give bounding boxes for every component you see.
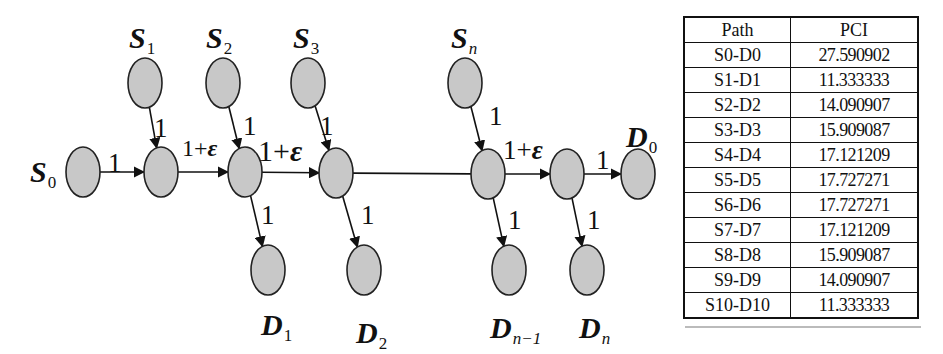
table-shadow xyxy=(685,326,921,328)
weight-cn1-d0: 1 xyxy=(596,147,610,174)
weight-s3-c3: 1 xyxy=(320,113,334,140)
pci-value-cell: 14.090907 xyxy=(791,93,919,118)
weight-cn-cn1: 1+ε xyxy=(503,137,543,164)
node-s3 xyxy=(291,58,325,108)
pci-value-cell: 15.909087 xyxy=(791,118,919,143)
edge-cn1-dn xyxy=(572,198,582,246)
table-row: S7-D717.121209 xyxy=(684,218,918,243)
node-d2 xyxy=(347,245,381,295)
node-c3 xyxy=(319,148,353,198)
node-cn xyxy=(471,149,505,199)
path-cell: S5-D5 xyxy=(684,168,791,193)
path-cell: S8-D8 xyxy=(684,243,791,268)
label-d0: D0 xyxy=(626,122,657,156)
node-dn-1 xyxy=(492,245,526,295)
path-cell: S2-D2 xyxy=(684,93,791,118)
pci-value-cell: 11.333333 xyxy=(791,68,919,93)
edge-c3-d2 xyxy=(343,196,358,247)
column-header-pci: PCI xyxy=(791,17,919,43)
path-cell: S10-D10 xyxy=(684,293,791,319)
weight-c2-c3: 1+ε xyxy=(258,136,302,166)
table-row: S10-D1011.333333 xyxy=(684,293,918,319)
path-cell: S3-D3 xyxy=(684,118,791,143)
table-row: S8-D815.909087 xyxy=(684,243,918,268)
weight-c1-c2: 1+ε xyxy=(182,136,217,160)
path-cell: S1-D1 xyxy=(684,68,791,93)
weight-cn-dn-minus-1: 1 xyxy=(508,207,522,234)
node-dn xyxy=(570,245,604,295)
path-cell: S4-D4 xyxy=(684,143,791,168)
pci-value-cell: 17.727271 xyxy=(791,168,919,193)
pci-table: Path PCI S0-D027.590902S1-D111.333333S2-… xyxy=(683,16,919,319)
label-dn-minus-1: Dn−1 xyxy=(490,313,541,347)
path-cell: S9-D9 xyxy=(684,268,791,293)
label-d2: D2 xyxy=(356,318,387,352)
table-row: S6-D617.727271 xyxy=(684,193,918,218)
label-d1: D1 xyxy=(261,310,292,344)
label-s0: S0 xyxy=(30,157,56,191)
pci-value-cell: 17.121209 xyxy=(791,143,919,168)
weight-sn-cn: 1 xyxy=(489,103,503,130)
label-s3: S3 xyxy=(293,23,319,57)
table-header-row: Path PCI xyxy=(684,17,918,43)
weight-s1-c1: 1 xyxy=(154,115,168,142)
table-body: S0-D027.590902S1-D111.333333S2-D214.0909… xyxy=(684,43,918,319)
node-s1 xyxy=(128,58,162,108)
pci-value-cell: 17.121209 xyxy=(791,218,919,243)
table-row: S0-D027.590902 xyxy=(684,43,918,68)
table-row: S2-D214.090907 xyxy=(684,93,918,118)
pci-value-cell: 11.333333 xyxy=(791,293,919,319)
node-s2 xyxy=(206,58,240,108)
weight-c3-d2: 1 xyxy=(361,202,375,229)
label-s2: S2 xyxy=(206,23,232,57)
pci-value-cell: 15.909087 xyxy=(791,243,919,268)
edge-c2-c3 xyxy=(262,172,319,173)
pci-value-cell: 17.727271 xyxy=(791,193,919,218)
node-d1 xyxy=(251,245,285,295)
weight-cn1-dn: 1 xyxy=(587,207,601,234)
label-s1: S1 xyxy=(129,23,155,57)
node-sn xyxy=(448,58,482,108)
table-row: S3-D315.909087 xyxy=(684,118,918,143)
weight-s2-c2: 1 xyxy=(243,113,257,140)
table-row: S5-D517.727271 xyxy=(684,168,918,193)
node-s0 xyxy=(66,147,100,197)
table-row: S4-D417.121209 xyxy=(684,143,918,168)
table-row: S9-D914.090907 xyxy=(684,268,918,293)
pci-value-cell: 14.090907 xyxy=(791,268,919,293)
edge-s2-c2 xyxy=(229,106,239,148)
weight-s0-c1: 1 xyxy=(108,150,122,177)
node-cn1 xyxy=(550,149,584,199)
label-dn: Dn xyxy=(579,313,610,347)
node-c2 xyxy=(228,147,262,197)
label-sn: Sn xyxy=(451,23,477,57)
path-cell: S6-D6 xyxy=(684,193,791,218)
path-cell: S7-D7 xyxy=(684,218,791,243)
path-cell: S0-D0 xyxy=(684,43,791,68)
weight-c2-d1: 1 xyxy=(261,202,275,229)
edge-c3-cn xyxy=(353,173,471,174)
node-c1 xyxy=(144,147,178,197)
column-header-path: Path xyxy=(684,17,791,43)
table-row: S1-D111.333333 xyxy=(684,68,918,93)
nodes-group xyxy=(66,58,655,295)
pci-value-cell: 27.590902 xyxy=(791,43,919,68)
edge-cn-dn-1 xyxy=(493,198,504,246)
edge-sn-cn xyxy=(471,106,482,150)
